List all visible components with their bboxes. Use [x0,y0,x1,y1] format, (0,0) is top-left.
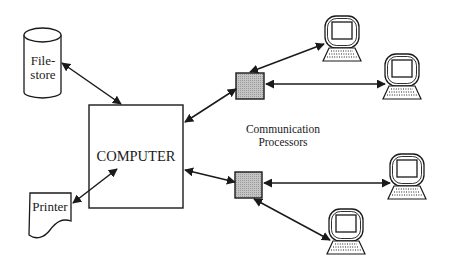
terminal-1-icon [323,16,361,61]
filestore-label-line1: File- [31,53,56,68]
communication-processor-top [236,73,264,99]
processors-annotation: Communication Processors [246,123,320,148]
annotation-line2: Processors [258,136,308,148]
network-diagram: File- store Printer COMPUTER Communicati… [0,0,452,272]
printer-label: Printer [32,199,68,214]
terminal-2-icon [383,54,421,99]
terminal-3-icon [388,154,426,199]
edge-processor-bottom-terminal-4 [254,199,330,240]
edge-computer-processor-bottom [185,170,235,182]
computer-label: COMPUTER [97,148,176,164]
filestore-node: File- store [24,28,61,98]
filestore-label-line2: store [30,67,56,82]
computer-node: COMPUTER [89,105,183,208]
terminal-4-icon [327,209,365,254]
edge-computer-processor-top [185,89,236,122]
edge-processor-top-terminal-1 [250,44,324,72]
annotation-line1: Communication [246,123,320,135]
printer-node: Printer [29,193,71,238]
edge-filestore-computer [62,63,121,104]
communication-processor-bottom [235,172,262,198]
